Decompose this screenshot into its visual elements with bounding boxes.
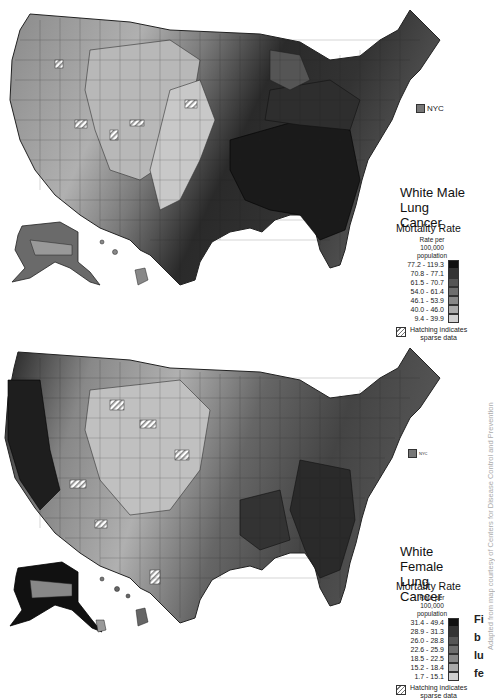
legend-swatch xyxy=(448,618,459,627)
female-legend: Mortality Rate Rate per 100,000 populati… xyxy=(396,580,467,700)
legend-class: 70.8 - 77.1 xyxy=(396,269,467,278)
legend-swatch xyxy=(448,287,459,296)
hatch-swatch-icon xyxy=(396,327,406,337)
legend-swatch xyxy=(448,305,459,314)
figure-caption-fragment: Fi b lu fe xyxy=(474,610,484,682)
male-lung-cancer-map: NYC White Male Lung Cancer Mortality Rat… xyxy=(0,0,470,335)
legend-class: 9.4 - 39.9 xyxy=(396,314,467,323)
female-lung-cancer-map: NYC White Female Lung Cancer Mortality R… xyxy=(0,340,470,679)
legend-class: 46.1 - 53.9 xyxy=(396,296,467,305)
nyc-inset-icon xyxy=(408,449,417,458)
legend-class: 28.9 - 31.3 xyxy=(396,627,467,636)
legend-swatch xyxy=(448,663,459,672)
nyc-inset-icon xyxy=(416,104,425,113)
legend-swatch xyxy=(448,645,459,654)
legend-heading: Mortality Rate xyxy=(396,580,467,592)
legend-class: 61.5 - 70.7 xyxy=(396,278,467,287)
legend-class: 15.2 - 18.4 xyxy=(396,663,467,672)
legend-swatch xyxy=(448,627,459,636)
legend-swatch xyxy=(448,269,459,278)
legend-class: 40.0 - 46.0 xyxy=(396,305,467,314)
legend-subheading: Rate per 100,000 population xyxy=(402,594,462,618)
legend-swatch xyxy=(448,654,459,663)
legend-heading: Mortality Rate xyxy=(396,222,467,234)
nyc-inset-label: NYC xyxy=(408,449,427,458)
legend-class: 26.0 - 28.8 xyxy=(396,636,467,645)
legend-swatch xyxy=(448,260,459,269)
legend-class: 54.0 - 61.4 xyxy=(396,287,467,296)
nyc-inset-label: NYC xyxy=(416,104,444,113)
hatch-note: Hatching indicatessparse data xyxy=(396,684,467,700)
legend-class: 1.7 - 15.1 xyxy=(396,672,467,681)
legend-swatch xyxy=(448,278,459,287)
legend-class: 18.5 - 22.5 xyxy=(396,654,467,663)
legend-class: 77.2 - 119.3 xyxy=(396,260,467,269)
legend-swatch xyxy=(448,672,459,681)
male-legend: Mortality Rate Rate per 100,000 populati… xyxy=(396,222,467,342)
legend-class: 22.6 - 25.9 xyxy=(396,645,467,654)
hatch-swatch-icon xyxy=(396,685,406,695)
legend-swatch xyxy=(448,314,459,323)
legend-swatch xyxy=(448,296,459,305)
legend-subheading: Rate per 100,000 population xyxy=(402,236,462,260)
source-credit: Adapted from map courtesy of Centers for… xyxy=(476,290,488,650)
legend-swatch xyxy=(448,636,459,645)
legend-class: 31.4 - 49.4 xyxy=(396,618,467,627)
